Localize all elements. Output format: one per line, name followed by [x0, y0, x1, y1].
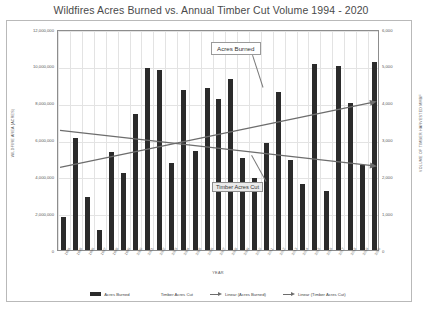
chart-title: Wildfires Acres Burned vs. Annual Timber…: [0, 4, 422, 16]
chart-legend: Acres BurnedTimber Acres CutLinear (Acre…: [57, 288, 379, 300]
bar: [169, 163, 174, 250]
x-axis-title: YEAR: [57, 271, 379, 275]
gridline-vertical: [332, 31, 333, 250]
bar: [73, 138, 78, 250]
bar: [312, 64, 317, 250]
y-axis-left-title: WILDFIRE AREA (ACRES): [11, 95, 15, 171]
gridline-vertical: [320, 31, 321, 250]
y-axis-right-title: VOLUME OF TIMBER HARVESTED MMBF: [419, 78, 423, 188]
legend-item[interactable]: Timber Acres Cut: [147, 292, 193, 297]
gridline-vertical: [94, 31, 95, 250]
bar: [193, 151, 198, 250]
y-axis-left-tick-label: 2,000,000: [0, 212, 54, 217]
bar: [85, 197, 90, 250]
gridline-vertical: [237, 31, 238, 250]
gridline-vertical: [225, 31, 226, 250]
gridline-vertical: [177, 31, 178, 250]
gridline-vertical: [82, 31, 83, 250]
gridline-vertical: [261, 31, 262, 250]
legend-item[interactable]: Linear (Timber Acres Cut): [283, 292, 346, 297]
bar: [109, 152, 114, 250]
gridline-vertical: [130, 31, 131, 250]
gridline-vertical: [285, 31, 286, 250]
legend-swatch-blank-icon: [147, 292, 158, 296]
gridline-vertical: [344, 31, 345, 250]
bar: [145, 68, 150, 250]
gridline-vertical: [70, 31, 71, 250]
bar: [276, 92, 281, 250]
legend-swatch-bar-icon: [90, 292, 101, 296]
bar: [336, 66, 341, 250]
bar: [288, 160, 293, 250]
y-axis-left-tick-label: 10,000,000: [0, 64, 54, 69]
y-axis-right-tick-label: 5,000: [382, 64, 422, 69]
bar: [97, 230, 102, 250]
bar: [121, 173, 126, 250]
bar: [216, 99, 221, 250]
gridline-vertical: [368, 31, 369, 250]
gridline-vertical: [165, 31, 166, 250]
legend-item-label: Linear (Timber Acres Cut): [298, 292, 346, 297]
gridline-vertical: [213, 31, 214, 250]
gridline-vertical: [249, 31, 250, 250]
legend-item-label: Linear (Acres Burned): [225, 292, 266, 297]
bar: [61, 217, 66, 250]
bar: [348, 103, 353, 250]
gridline-vertical: [201, 31, 202, 250]
y-axis-left-tick-label: 0: [0, 249, 54, 254]
bar: [264, 143, 269, 250]
y-axis-right-tick-label: 3,000: [382, 138, 422, 143]
y-axis-right-tick-label: 6,000: [382, 28, 422, 33]
bar: [228, 79, 233, 250]
gridline-vertical: [141, 31, 142, 250]
y-axis-left-tick-label: 4,000,000: [0, 175, 54, 180]
plot-area: [57, 30, 379, 251]
gridline-vertical: [189, 31, 190, 250]
gridline-vertical: [297, 31, 298, 250]
bar: [157, 70, 162, 250]
y-axis-right-tick-label: 0: [382, 249, 422, 254]
annotation-acres-burned: Acres Burned: [211, 42, 261, 55]
y-axis-right-tick-label: 4,000: [382, 101, 422, 106]
legend-item[interactable]: Linear (Acres Burned): [210, 292, 266, 297]
legend-swatch-arrow-line-icon: [210, 292, 222, 297]
y-axis-right-tick-label: 1,000: [382, 212, 422, 217]
gridline-vertical: [308, 31, 309, 250]
legend-item[interactable]: Acres Burned: [90, 292, 129, 297]
bar: [205, 88, 210, 250]
annotation-timber-acres-cut: Timber Acres Cut: [212, 182, 263, 192]
y-axis-right-tick-label: 2,000: [382, 175, 422, 180]
y-axis-left-tick-label: 12,000,000: [0, 28, 54, 33]
gridline-vertical: [153, 31, 154, 250]
bar: [240, 158, 245, 250]
gridline-vertical: [106, 31, 107, 250]
bar: [181, 90, 186, 250]
legend-item-label: Timber Acres Cut: [161, 292, 193, 297]
bar: [360, 165, 365, 250]
bar: [300, 184, 305, 250]
y-axis-left-tick-label: 6,000,000: [0, 138, 54, 143]
bar: [324, 191, 329, 250]
gridline-vertical: [58, 31, 59, 250]
bar: [372, 62, 377, 250]
legend-swatch-arrow-line-icon: [283, 292, 295, 297]
gridline-vertical: [118, 31, 119, 250]
gridline-vertical: [273, 31, 274, 250]
bar: [133, 114, 138, 250]
y-axis-left-tick-label: 8,000,000: [0, 101, 54, 106]
legend-item-label: Acres Burned: [104, 292, 129, 297]
gridline-vertical: [356, 31, 357, 250]
